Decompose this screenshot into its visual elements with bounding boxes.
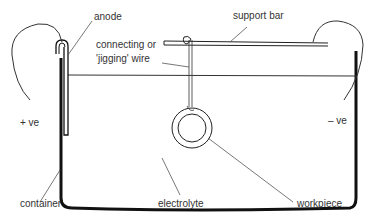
label-support-bar: support bar [233, 10, 284, 21]
label-positive: + ve [20, 117, 40, 128]
connecting-wire-leader [162, 63, 189, 67]
label-anode: anode [94, 11, 122, 22]
label-container: container [20, 198, 62, 209]
electrolyte-leader [162, 158, 180, 195]
label-connecting-line1: connecting or [96, 39, 157, 50]
support-bar-leader [230, 27, 247, 42]
positive-lead-wire [12, 24, 62, 100]
electrolyte-surface [68, 75, 356, 76]
workpiece-leader [208, 138, 293, 202]
label-workpiece: workpiece [296, 198, 342, 209]
electroplating-diagram: anode support bar connecting or 'jigging… [0, 0, 373, 219]
label-connecting-line2: 'jigging' wire [96, 53, 150, 64]
label-negative: – ve [328, 115, 347, 126]
anode-leader [68, 21, 92, 55]
workpiece-ring [172, 108, 212, 148]
jigging-wire [183, 36, 194, 110]
label-electrolyte: electrolyte [158, 198, 204, 209]
